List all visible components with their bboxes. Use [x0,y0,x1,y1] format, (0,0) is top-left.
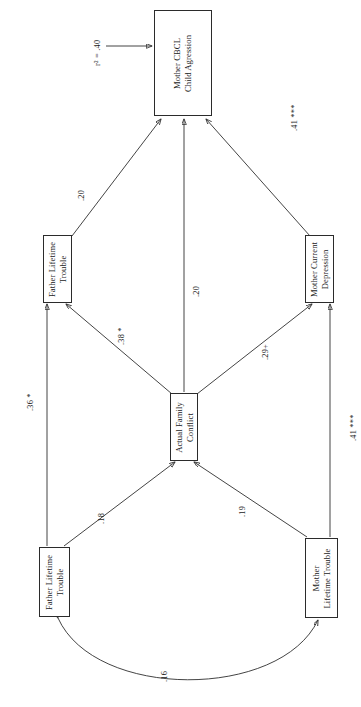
node-mother-current-depression[interactable]: Mother Current Depression [305,235,334,303]
node-father-bottom-line2: Trouble [55,554,66,609]
path-label-conflict-to-cbcl: .20 [192,286,201,297]
edge-father-bottom-to-conflict [64,462,175,546]
node-father-bottom-line1: Father Lifetime [44,554,55,609]
r-squared-label: r² = .40 [93,40,102,66]
node-mother-cbcl-line1: Mother CBCL [173,34,184,91]
node-mother-lifetime-trouble[interactable]: Mother Lifetime Trouble [305,538,338,618]
node-conflict-line1: Actual Family [174,402,185,453]
path-label-father-bottom-to-father-top: .36 * [26,393,35,411]
path-label-father-top-to-cbcl: .20 [77,190,86,201]
node-mother-trouble-line2: Lifetime Trouble [322,548,333,608]
edge-covariance [58,618,318,680]
edge-father-top-to-cbcl [72,119,161,236]
node-conflict-line2: Conflict [184,402,195,453]
node-father-lifetime-trouble-bottom[interactable]: Father Lifetime Trouble [39,547,70,617]
edge-depression-to-cbcl [206,119,310,236]
edge-mother-trouble-to-conflict [194,462,307,537]
path-label-depression-to-cbcl: .41 *** [290,104,299,131]
path-label-conflict-to-father-top: .38 * [117,327,126,345]
path-label-conflict-to-depression: .29+ [261,344,270,360]
node-depression-line2: Depression [320,241,331,296]
path-label-father-bottom-to-conflict: .18 [97,513,106,524]
node-father-top-line2: Trouble [58,241,69,296]
edge-conflict-to-father-top [66,304,172,394]
node-father-top-line1: Father Lifetime [47,241,58,296]
path-label-mother-trouble-to-depression: .41 *** [349,414,358,441]
path-diagram-canvas: Mother CBCL Child Agression Father Lifet… [0,0,361,707]
path-label-covariance: .16 [160,671,169,682]
node-depression-line1: Mother Current [309,241,320,296]
edge-conflict-to-depression [197,304,312,394]
node-mother-trouble-line1: Mother [311,548,322,608]
node-father-lifetime-trouble-top[interactable]: Father Lifetime Trouble [43,235,72,303]
node-mother-cbcl-line2: Child Agression [183,34,194,91]
node-mother-cbcl[interactable]: Mother CBCL Child Agression [154,10,212,116]
path-label-mother-trouble-to-conflict: .19 [238,506,247,517]
node-actual-family-conflict[interactable]: Actual Family Conflict [170,393,198,461]
